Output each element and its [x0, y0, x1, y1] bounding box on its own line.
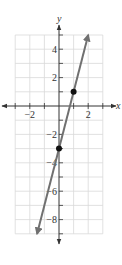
y-tick-label: −2: [46, 129, 57, 140]
y-tick-label: 2: [52, 72, 57, 83]
y-tick-label: 4: [52, 44, 57, 55]
y-tick-label: −8: [46, 214, 57, 225]
x-axis-label: x: [115, 100, 121, 111]
plotted-point: [56, 146, 62, 152]
plotted-point: [71, 89, 77, 95]
coordinate-graph: −2242−2−4−6−8 x y: [0, 0, 122, 265]
x-tick-label: 2: [86, 109, 91, 120]
x-tick-label: −2: [24, 109, 35, 120]
y-axis-label: y: [56, 13, 62, 24]
